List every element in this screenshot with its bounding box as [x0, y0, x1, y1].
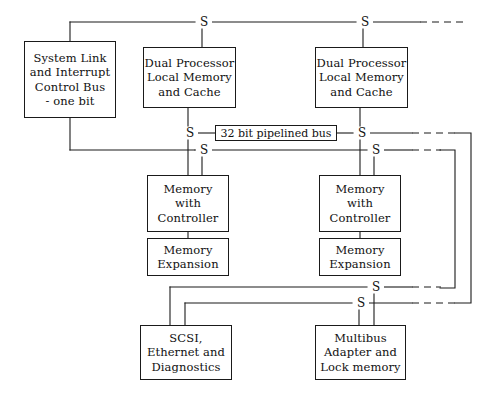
bus-junction-s-pipelined-right: S: [354, 127, 370, 139]
multibus-adapter-and-lock-memory-box-line-3: Lock memory: [320, 360, 400, 375]
dual-processor-local-memory-and-cache-box-left: Dual ProcessorLocal Memoryand Cache: [143, 47, 236, 108]
dual-processor-local-memory-and-cache-box-right-line-1: Dual Processor: [317, 56, 407, 71]
multibus-adapter-and-lock-memory-box-line-1: Multibus: [334, 331, 387, 346]
inner-right-return: [440, 150, 455, 288]
scsi-ethernet-and-diagnostics-box-line-3: Diagnostics: [151, 360, 220, 375]
scsi-ethernet-and-diagnostics-box-line-2: Ethernet and: [147, 345, 225, 360]
memory-with-controller-box-right-line-3: Controller: [330, 211, 391, 226]
dual-processor-local-memory-and-cache-box-left-line-1: Dual Processor: [145, 56, 235, 71]
system-link-and-interrupt-control-bus-box-line-2: and Interrupt: [30, 65, 110, 80]
memory-with-controller-box-right: MemorywithController: [319, 175, 401, 232]
memory-expansion-box-right: MemoryExpansion: [319, 238, 401, 276]
system-link-and-interrupt-control-bus-box-line-1: System Link: [33, 51, 106, 66]
memory-expansion-box-right-line-1: Memory: [335, 243, 384, 258]
dual-processor-local-memory-and-cache-box-right-line-3: and Cache: [330, 85, 393, 100]
system-link-and-interrupt-control-bus-box: System Linkand InterruptControl Bus- one…: [24, 41, 116, 118]
memory-with-controller-box-right-line-1: Memory: [335, 182, 384, 197]
memory-with-controller-box-left-line-3: Controller: [158, 211, 219, 226]
scsi-ethernet-and-diagnostics-box: SCSI,Ethernet andDiagnostics: [140, 325, 232, 380]
memory-with-controller-box-left: MemorywithController: [147, 175, 229, 232]
memory-expansion-box-right-line-2: Expansion: [329, 257, 390, 272]
memory-expansion-box-left-line-2: Expansion: [157, 257, 218, 272]
memory-expansion-box-left-line-1: Memory: [163, 243, 212, 258]
multibus-adapter-and-lock-memory-box: MultibusAdapter andLock memory: [315, 325, 406, 380]
bus-junction-s-memory-left: S: [196, 144, 212, 156]
system-link-and-interrupt-control-bus-box-line-3: Control Bus: [35, 80, 105, 95]
32-bit-pipelined-bus-label: 32 bit pipelined bus: [215, 125, 337, 141]
dual-processor-local-memory-and-cache-box-right: Dual ProcessorLocal Memoryand Cache: [315, 47, 408, 108]
scsi-ethernet-and-diagnostics-box-line-1: SCSI,: [169, 331, 202, 346]
dual-processor-local-memory-and-cache-box-right-line-2: Local Memory: [319, 70, 404, 85]
bus-junction-s-top-right: S: [357, 16, 373, 28]
memory-expansion-box-left: MemoryExpansion: [147, 238, 229, 276]
memory-with-controller-box-left-line-2: with: [175, 196, 201, 211]
dual-processor-local-memory-and-cache-box-left-line-2: Local Memory: [147, 70, 232, 85]
bus-junction-s-memory-right: S: [368, 144, 384, 156]
outer-right-return-top: [455, 133, 471, 303]
multibus-adapter-and-lock-memory-box-line-2: Adapter and: [324, 345, 397, 360]
system-link-and-interrupt-control-bus-box-line-4: - one bit: [46, 94, 95, 109]
memory-with-controller-box-left-line-1: Memory: [163, 182, 212, 197]
bus-junction-s-pipelined-left: S: [182, 127, 198, 139]
bus-junction-s-io-lower: S: [353, 297, 369, 309]
solid-wire-group: [70, 22, 471, 325]
memory-with-controller-box-right-line-2: with: [347, 196, 373, 211]
system-block-diagram: System Linkand InterruptControl Bus- one…: [0, 0, 498, 400]
bus-junction-s-io-upper: S: [368, 281, 384, 293]
bus-junction-s-top-left: S: [196, 16, 212, 28]
dual-processor-local-memory-and-cache-box-left-line-3: and Cache: [158, 85, 221, 100]
bus-label-text: 32 bit pipelined bus: [220, 126, 331, 141]
